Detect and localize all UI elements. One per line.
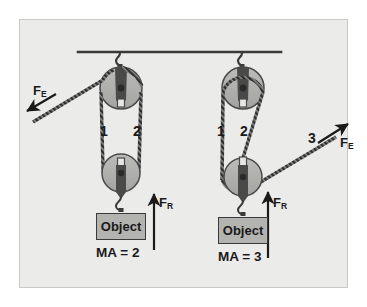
- left-effort-force-label: FE: [33, 84, 47, 97]
- right-load-hook-icon: [238, 201, 246, 216]
- right-effort-force-subscript: E: [348, 141, 354, 151]
- right-rope-label-1: 1: [217, 124, 225, 138]
- right-rope-label-3: 3: [308, 131, 316, 145]
- left-resistance-force-label: FR: [159, 196, 173, 209]
- left-mechanical-advantage-label: MA = 2: [96, 246, 139, 260]
- left-object-box: Object: [96, 213, 146, 240]
- right-resistance-force-subscript: R: [281, 201, 287, 211]
- right-resistance-force-symbol: F: [273, 195, 281, 210]
- diagram-canvas: [0, 0, 367, 307]
- left-resistance-force-symbol: F: [159, 195, 167, 210]
- figure-root: FE 1 2 FR Object MA = 2 1 2 3 FE FR Obje…: [0, 0, 367, 307]
- right-rope-label-2: 2: [240, 124, 248, 138]
- right-effort-force-label: FE: [340, 136, 354, 149]
- left-resistance-force-subscript: R: [167, 201, 173, 211]
- right-effort-force-symbol: F: [340, 135, 348, 150]
- left-rope-label-1: 1: [100, 124, 108, 138]
- right-movable-pulley: [224, 157, 262, 203]
- left-load-hook-icon: [116, 197, 124, 212]
- right-mechanical-advantage-label: MA = 3: [218, 250, 261, 264]
- left-movable-pulley: [102, 154, 140, 199]
- right-resistance-force-label: FR: [273, 196, 287, 209]
- left-effort-force-subscript: E: [41, 89, 47, 99]
- left-effort-force-symbol: F: [33, 83, 41, 98]
- left-rope-label-2: 2: [133, 124, 141, 138]
- right-fixed-pulley: [222, 67, 264, 109]
- right-object-box: Object: [218, 217, 268, 244]
